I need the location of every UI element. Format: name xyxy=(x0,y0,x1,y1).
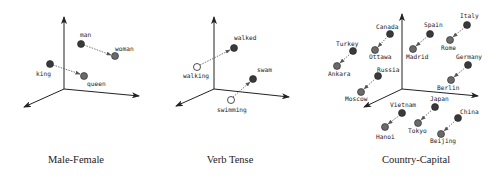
label-tokyo: Tokyo xyxy=(408,127,427,135)
point-vietnam xyxy=(399,110,406,117)
label-moscow: Moscow xyxy=(345,95,368,102)
point-italy xyxy=(464,22,471,29)
point-madrid xyxy=(410,46,417,53)
point-japan xyxy=(432,104,439,111)
label-madrid: Madrid xyxy=(406,53,429,60)
panel-country-capital: Canada Ottawa Turkey Ankara Spain Madrid… xyxy=(328,12,482,165)
panel-verb-tense: walked walking swam swimming Verb Tense xyxy=(176,17,289,165)
label-walked: walked xyxy=(234,34,257,41)
label-queen: queen xyxy=(87,80,106,88)
point-berlin xyxy=(448,77,455,84)
label-italy: Italy xyxy=(460,12,479,20)
caption-verb-tense: Verb Tense xyxy=(207,154,254,165)
point-king xyxy=(47,61,54,68)
label-ankara: Ankara xyxy=(328,70,351,77)
label-hanoi: Hanoi xyxy=(376,133,395,140)
relation-arrows xyxy=(53,45,111,74)
point-swimming xyxy=(228,97,235,104)
label-king: king xyxy=(36,70,51,78)
label-man: man xyxy=(80,31,91,38)
label-china: China xyxy=(460,108,479,115)
point-man xyxy=(78,41,85,48)
label-walking: walking xyxy=(183,72,209,80)
label-turkey: Turkey xyxy=(336,40,359,48)
label-beijing: Beijing xyxy=(430,137,456,145)
point-walked xyxy=(231,45,238,52)
point-china xyxy=(455,115,462,122)
point-spain xyxy=(427,31,434,38)
point-turkey xyxy=(350,48,357,55)
word-embedding-diagram: man woman king queen Male-Female walked … xyxy=(0,0,503,180)
label-spain: Spain xyxy=(424,21,443,29)
label-vietnam: Vietnam xyxy=(390,101,416,108)
point-hanoi xyxy=(382,124,389,131)
caption-country-capital: Country-Capital xyxy=(382,154,450,165)
point-russia xyxy=(375,73,382,80)
label-russia: Russia xyxy=(377,66,400,73)
point-canada xyxy=(387,31,394,38)
point-woman xyxy=(112,53,119,60)
point-germany xyxy=(465,62,472,69)
panel-male-female: man woman king queen Male-Female xyxy=(24,17,139,165)
label-swam: swam xyxy=(257,66,272,73)
label-germany: Germany xyxy=(456,53,482,61)
point-swam xyxy=(250,76,257,83)
label-ottawa: Ottawa xyxy=(369,53,392,60)
caption-male-female: Male-Female xyxy=(48,154,104,165)
label-swimming: swimming xyxy=(217,106,247,114)
point-rome xyxy=(447,37,454,44)
label-woman: woman xyxy=(115,45,134,52)
label-canada: Canada xyxy=(376,23,399,30)
label-japan: Japan xyxy=(430,95,449,103)
label-berlin: Berlin xyxy=(437,84,460,91)
point-queen xyxy=(81,73,88,80)
point-walking xyxy=(194,64,201,71)
label-rome: Rome xyxy=(441,44,456,51)
axes xyxy=(176,17,289,106)
point-ankara xyxy=(334,63,341,70)
point-tokyo xyxy=(415,120,422,127)
